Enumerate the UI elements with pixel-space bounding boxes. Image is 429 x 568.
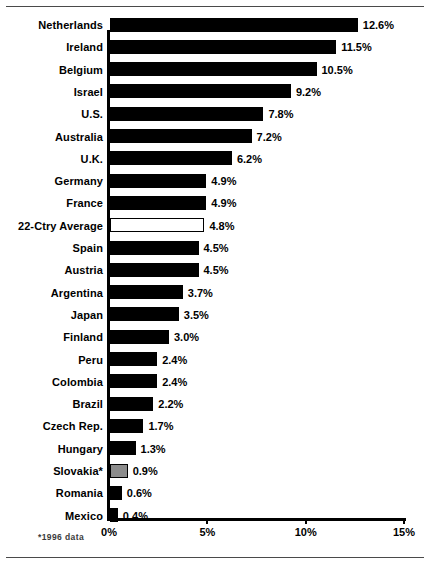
bar	[110, 218, 204, 232]
category-label: Colombia	[0, 371, 103, 393]
bar-value-label: 6.2%	[237, 148, 262, 170]
bar	[110, 441, 136, 455]
bottom-divider-rule	[6, 557, 424, 558]
bar	[110, 307, 179, 321]
bar-row: Spain4.5%	[0, 237, 429, 259]
bar-row: Mexico0.4%	[0, 505, 429, 527]
bar	[110, 263, 199, 277]
bar-row: Romania0.6%	[0, 482, 429, 504]
bar	[110, 151, 232, 165]
category-label: Germany	[0, 170, 103, 192]
category-label: France	[0, 192, 103, 214]
x-axis-tick	[206, 518, 208, 524]
category-label: Belgium	[0, 59, 103, 81]
bar-value-label: 0.9%	[133, 460, 158, 482]
bar-row: U.S.7.8%	[0, 103, 429, 125]
bar-row: Hungary1.3%	[0, 438, 429, 460]
bar-value-label: 3.0%	[174, 326, 199, 348]
bar-row: Israel9.2%	[0, 81, 429, 103]
bar-row: Netherlands12.6%	[0, 14, 429, 36]
bar-value-label: 10.5%	[322, 59, 353, 81]
bar	[110, 241, 199, 255]
bar-value-label: 4.9%	[211, 170, 236, 192]
bar-row: U.K.6.2%	[0, 148, 429, 170]
bar	[110, 40, 336, 54]
category-label: Israel	[0, 81, 103, 103]
category-label: Finland	[0, 326, 103, 348]
bar	[110, 196, 206, 210]
bar-row: Japan3.5%	[0, 304, 429, 326]
bar-value-label: 7.2%	[257, 126, 282, 148]
bar-value-label: 7.8%	[268, 103, 293, 125]
category-label: Netherlands	[0, 14, 103, 36]
top-divider-rule	[6, 6, 424, 7]
x-axis-line	[107, 518, 406, 521]
category-label: 22-Ctry Average	[0, 215, 103, 237]
category-label: Slovakia*	[0, 460, 103, 482]
bar-row: Slovakia*0.9%	[0, 460, 429, 482]
bar-value-label: 2.4%	[162, 349, 187, 371]
bar	[110, 285, 183, 299]
bar-value-label: 4.5%	[204, 259, 229, 281]
bar-value-label: 11.5%	[341, 36, 372, 58]
bar	[110, 62, 317, 76]
bar-value-label: 4.8%	[209, 215, 234, 237]
category-label: Spain	[0, 237, 103, 259]
bar-value-label: 2.2%	[158, 393, 183, 415]
bar-row: Colombia2.4%	[0, 371, 429, 393]
bar	[110, 107, 263, 121]
category-label: Australia	[0, 126, 103, 148]
category-label: Argentina	[0, 282, 103, 304]
bar-row: Australia7.2%	[0, 126, 429, 148]
bar-row: Finland3.0%	[0, 326, 429, 348]
bar-value-label: 1.3%	[141, 438, 166, 460]
bar	[110, 486, 122, 500]
category-label: Peru	[0, 349, 103, 371]
category-label: U.S.	[0, 103, 103, 125]
x-axis-tick	[305, 518, 307, 524]
x-axis-tick	[403, 518, 405, 524]
bar-row: Czech Rep.1.7%	[0, 415, 429, 437]
bar-row: France4.9%	[0, 192, 429, 214]
bar-value-label: 4.5%	[204, 237, 229, 259]
x-axis-tick-label: 0%	[101, 526, 117, 538]
bar	[110, 129, 252, 143]
category-label: Romania	[0, 482, 103, 504]
x-axis-tick-label: 15%	[393, 526, 415, 538]
bar	[110, 374, 157, 388]
bar-row: Ireland11.5%	[0, 36, 429, 58]
bar-value-label: 0.4%	[123, 505, 148, 527]
bar-value-label: 4.9%	[211, 192, 236, 214]
category-label: U.K.	[0, 148, 103, 170]
bar-value-label: 3.5%	[184, 304, 209, 326]
bar	[110, 419, 143, 433]
bar-value-label: 1.7%	[148, 415, 173, 437]
bar	[110, 330, 169, 344]
x-axis-tick-label: 10%	[295, 526, 317, 538]
footnote-text: *1996 data	[38, 532, 84, 542]
bar-value-label: 12.6%	[363, 14, 394, 36]
plot-area: Netherlands12.6%Ireland11.5%Belgium10.5%…	[0, 14, 429, 504]
bar	[110, 174, 206, 188]
bar	[110, 397, 153, 411]
bar	[110, 18, 358, 32]
bar-chart-figure: Netherlands12.6%Ireland11.5%Belgium10.5%…	[0, 0, 429, 568]
category-label: Mexico	[0, 505, 103, 527]
category-label: Japan	[0, 304, 103, 326]
bar-row: 22-Ctry Average4.8%	[0, 215, 429, 237]
bar-row: Austria4.5%	[0, 259, 429, 281]
bar-row: Peru2.4%	[0, 349, 429, 371]
bar-value-label: 0.6%	[127, 482, 152, 504]
bar	[110, 464, 128, 478]
bar-value-label: 9.2%	[296, 81, 321, 103]
bar-value-label: 3.7%	[188, 282, 213, 304]
x-axis-tick-label: 5%	[199, 526, 215, 538]
bar-value-label: 2.4%	[162, 371, 187, 393]
bar-row: Brazil2.2%	[0, 393, 429, 415]
y-axis-line	[107, 30, 110, 518]
bar-row: Argentina3.7%	[0, 282, 429, 304]
category-label: Hungary	[0, 438, 103, 460]
category-label: Ireland	[0, 36, 103, 58]
bar	[110, 84, 291, 98]
category-label: Czech Rep.	[0, 415, 103, 437]
